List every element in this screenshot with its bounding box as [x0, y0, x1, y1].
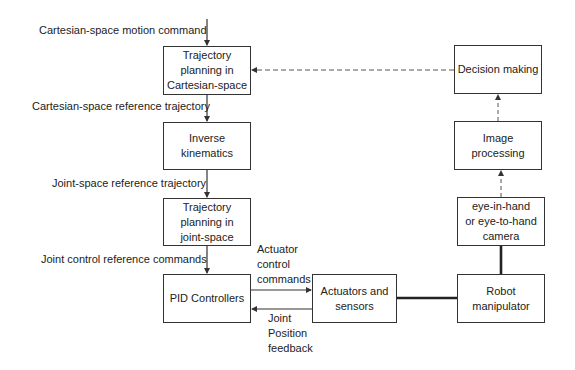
box-inverse-kinematics: Inverse kinematics [163, 122, 251, 170]
box-camera: eye-in-hand or eye-to-hand camera [457, 197, 545, 246]
label-joint-reference-trajectory: Joint-space reference trajectory [52, 176, 206, 191]
box-label: Trajectory planning in joint-space [180, 200, 233, 245]
box-label: PID Controllers [170, 291, 245, 306]
label-actuator-control-commands: Actuator control commands [257, 242, 311, 287]
box-actuators-sensors: Actuators and sensors [312, 274, 397, 323]
label-joint-control-reference: Joint control reference commands [41, 252, 207, 267]
box-label: Image processing [471, 131, 524, 161]
box-decision-making: Decision making [454, 45, 542, 94]
box-label: Inverse kinematics [181, 131, 233, 161]
box-label: eye-in-hand or eye-to-hand camera [465, 199, 537, 244]
box-label: Robot manipulator [472, 284, 529, 314]
label-cartesian-reference-trajectory: Cartesian-space reference trajectory [32, 99, 210, 114]
box-label: Actuators and sensors [321, 284, 389, 314]
label-cartesian-motion-command: Cartesian-space motion command [39, 23, 207, 38]
control-architecture-diagram: Trajectory planning in Cartesian-space I… [0, 0, 575, 370]
box-trajectory-planning-joint: Trajectory planning in joint-space [163, 198, 251, 246]
label-joint-position-feedback: Joint Position feedback [268, 311, 313, 356]
box-trajectory-planning-cartesian: Trajectory planning in Cartesian-space [163, 46, 251, 95]
box-robot-manipulator: Robot manipulator [457, 274, 545, 323]
box-image-processing: Image processing [454, 121, 542, 170]
box-label: Decision making [458, 62, 539, 77]
box-pid-controllers: PID Controllers [163, 274, 251, 323]
box-label: Trajectory planning in Cartesian-space [167, 48, 247, 93]
